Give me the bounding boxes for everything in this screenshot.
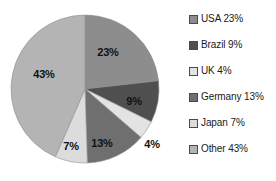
slice-label-usa: 23% [97,46,118,58]
pie-svg [0,0,185,181]
legend-item-label: Brazil 9% [201,40,242,50]
slice-label-uk: 4% [144,138,160,150]
legend-item[interactable]: Japan 7% [189,118,276,128]
legend-swatch-icon [189,145,198,154]
legend-item[interactable]: USA 23% [189,14,276,24]
legend-item[interactable]: Other 43% [189,144,276,154]
legend-item-label: UK 4% [201,66,232,76]
legend-item[interactable]: UK 4% [189,66,276,76]
slice-label-germany: 13% [91,137,112,149]
legend-item[interactable]: Brazil 9% [189,40,276,50]
legend-item[interactable]: Germany 13% [189,92,276,102]
pie-chart-figure: 23%9%4%13%7%43% USA 23%Brazil 9%UK 4%Ger… [0,0,276,181]
slice-label-other: 43% [33,68,54,80]
legend-swatch-icon [189,93,198,102]
legend-swatch-icon [189,67,198,76]
pie-slice-usa [85,15,159,89]
legend-swatch-icon [189,41,198,50]
chart-legend: USA 23%Brazil 9%UK 4%Germany 13%Japan 7%… [189,14,276,174]
legend-item-label: USA 23% [201,14,243,24]
pie-slice-group [11,15,159,163]
legend-item-label: Japan 7% [201,118,245,128]
pie-plot-area: 23%9%4%13%7%43% [0,0,185,181]
slice-label-brazil: 9% [126,95,142,107]
legend-swatch-icon [189,15,198,24]
slice-label-japan: 7% [63,140,79,152]
legend-swatch-icon [189,119,198,128]
legend-item-label: Other 43% [201,144,248,154]
legend-item-label: Germany 13% [201,92,264,102]
